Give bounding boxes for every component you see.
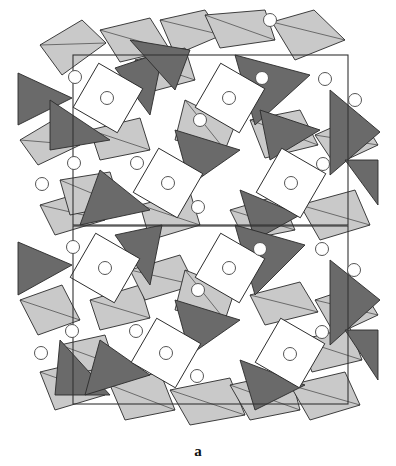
cation-atom xyxy=(66,325,79,338)
tetrahedron xyxy=(18,242,72,295)
cation-atom xyxy=(67,241,80,254)
cation-atom xyxy=(35,347,48,360)
cation-atom xyxy=(223,92,236,105)
cation-atom xyxy=(316,326,329,339)
cation-atom xyxy=(316,243,329,256)
cation-atom xyxy=(264,14,277,27)
cation-atom xyxy=(160,347,173,360)
cation-atom xyxy=(349,94,362,107)
cation-atom xyxy=(223,262,236,275)
cation-atom xyxy=(36,178,49,191)
figure-label: a xyxy=(0,443,396,460)
cation-atom xyxy=(192,284,205,297)
octahedron xyxy=(272,10,345,60)
cation-atom xyxy=(348,264,361,277)
cation-atom xyxy=(191,370,204,383)
cation-atom xyxy=(285,177,298,190)
cation-atom xyxy=(69,71,82,84)
cation-atom xyxy=(68,157,81,170)
crystal-structure-diagram xyxy=(0,0,396,466)
cation-atom xyxy=(319,73,332,86)
cation-atom xyxy=(256,72,269,85)
cation-atom xyxy=(254,243,267,256)
cation-atom xyxy=(131,157,144,170)
cation-atom xyxy=(284,348,297,361)
cation-atom xyxy=(101,92,114,105)
cation-atom xyxy=(130,325,143,338)
cation-atom xyxy=(99,262,112,275)
cation-atom xyxy=(192,201,205,214)
cation-atom xyxy=(317,158,330,171)
cation-atom xyxy=(162,177,175,190)
cation-atom xyxy=(194,114,207,127)
